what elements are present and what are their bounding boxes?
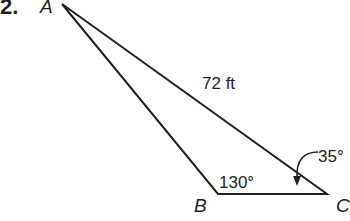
vertex-a-label: A (39, 0, 53, 17)
triangle-abc (62, 4, 327, 194)
vertex-c-label: C (336, 195, 350, 216)
angle-b-measure: 130° (219, 173, 254, 192)
angle-c-measure: 35° (318, 147, 344, 166)
triangle-diagram: A B C 72 ft 130° 35° (0, 0, 350, 221)
vertex-b-label: B (194, 195, 207, 216)
triangle-outline (62, 4, 327, 194)
angle-c-arrowhead-icon (293, 176, 301, 186)
side-ac-length: 72 ft (202, 74, 235, 93)
